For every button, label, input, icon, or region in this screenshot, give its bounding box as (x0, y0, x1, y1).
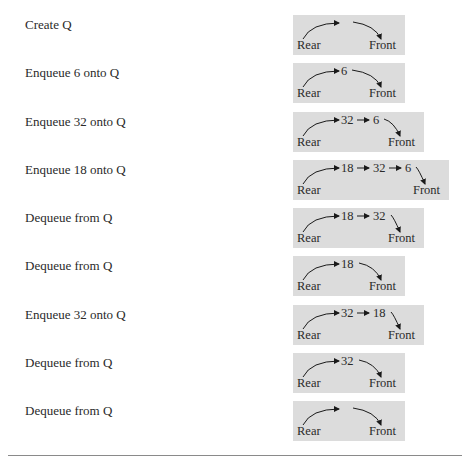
rear-label: Rear (297, 183, 321, 198)
queue-element: 18 (341, 161, 354, 176)
rear-label: Rear (297, 38, 321, 53)
queue-element: 6 (373, 113, 379, 128)
operation-label: Enqueue 6 onto Q (25, 65, 119, 81)
front-label: Front (388, 135, 415, 150)
operation-label: Enqueue 32 onto Q (25, 307, 126, 323)
operation-label: Dequeue from Q (25, 210, 112, 226)
front-label: Front (413, 183, 440, 198)
rear-label: Rear (297, 279, 321, 294)
operation-label: Dequeue from Q (25, 403, 112, 419)
queue-state-box: 6RearFront (293, 63, 405, 103)
rear-label: Rear (297, 86, 321, 101)
queue-element: 18 (373, 306, 386, 321)
queue-state-box: 18326RearFront (293, 160, 449, 200)
rear-label: Rear (297, 135, 321, 150)
queue-element: 32 (373, 209, 386, 224)
queue-state-box: 32RearFront (293, 353, 405, 393)
front-label: Front (388, 328, 415, 343)
queue-element: 6 (405, 161, 411, 176)
queue-element: 18 (341, 209, 354, 224)
front-label: Front (369, 424, 396, 439)
front-label: Front (369, 86, 396, 101)
operation-label: Enqueue 18 onto Q (25, 162, 126, 178)
queue-element: 32 (341, 354, 354, 369)
operation-label: Dequeue from Q (25, 258, 112, 274)
bottom-rule (8, 455, 462, 456)
front-label: Front (388, 231, 415, 246)
queue-state-box: RearFront (293, 15, 405, 55)
queue-state-box: 326RearFront (293, 112, 424, 152)
queue-element: 32 (341, 113, 354, 128)
queue-element: 18 (341, 257, 354, 272)
front-label: Front (369, 38, 396, 53)
operation-label: Create Q (25, 17, 72, 33)
queue-state-box: 18RearFront (293, 256, 405, 296)
rear-label: Rear (297, 376, 321, 391)
queue-element: 6 (341, 64, 347, 79)
queue-element: 32 (373, 161, 386, 176)
queue-state-box: RearFront (293, 401, 405, 441)
front-label: Front (369, 376, 396, 391)
operation-label: Dequeue from Q (25, 355, 112, 371)
front-label: Front (369, 279, 396, 294)
queue-state-box: 3218RearFront (293, 305, 424, 345)
operation-label: Enqueue 32 onto Q (25, 114, 126, 130)
rear-label: Rear (297, 231, 321, 246)
rear-label: Rear (297, 424, 321, 439)
queue-element: 32 (341, 306, 354, 321)
queue-state-box: 1832RearFront (293, 208, 424, 248)
rear-label: Rear (297, 328, 321, 343)
